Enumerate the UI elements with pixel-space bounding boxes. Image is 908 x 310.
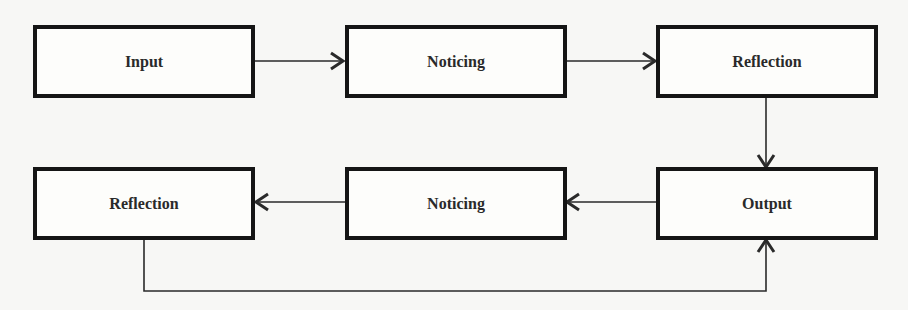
node-label: Input xyxy=(125,53,163,71)
node-label: Reflection xyxy=(732,53,801,71)
arrow-reflection-loop-to-output xyxy=(144,238,766,291)
node-noticing: Noticing xyxy=(345,25,567,98)
node-label: Reflection xyxy=(109,195,178,213)
node-input: Input xyxy=(33,25,255,98)
node-output: Output xyxy=(656,167,878,240)
node-label: Noticing xyxy=(427,195,485,213)
node-noticing-2: Noticing xyxy=(345,167,567,240)
node-label: Output xyxy=(742,195,792,213)
node-reflection-2: Reflection xyxy=(33,167,255,240)
node-reflection: Reflection xyxy=(656,25,878,98)
node-label: Noticing xyxy=(427,53,485,71)
